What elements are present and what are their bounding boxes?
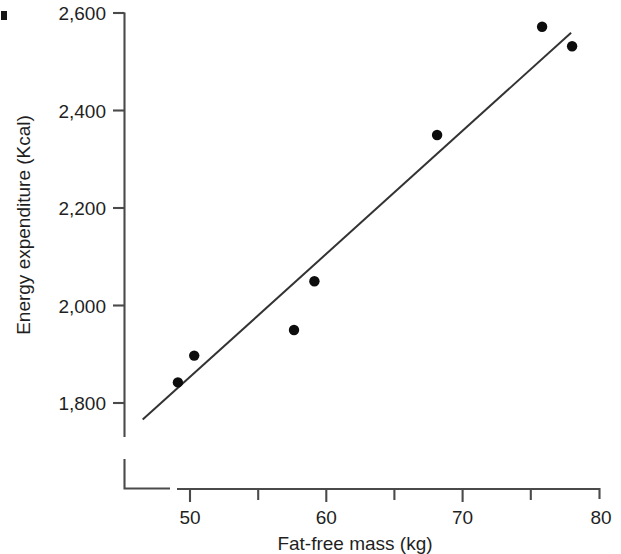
page-edge-marker-icon: [1, 11, 7, 20]
y-tick-label-2600: 2,600: [58, 3, 106, 24]
data-point: [189, 350, 199, 360]
y-tick-label-2200: 2,200: [58, 198, 106, 219]
x-tick-label-80: 80: [590, 507, 611, 528]
data-point: [289, 325, 299, 335]
x-axis-title: Fat-free mass (kg): [277, 533, 432, 554]
scatter-chart: 2,600 2,400 2,200 2,000 1,800 50 60 70 8…: [0, 0, 621, 554]
x-tick-label-70: 70: [452, 507, 473, 528]
regression-line: [143, 33, 571, 420]
data-point: [567, 41, 577, 51]
data-point: [432, 130, 442, 140]
y-tick-label-2000: 2,000: [58, 296, 106, 317]
data-point: [173, 377, 183, 387]
chart-canvas: 2,600 2,400 2,200 2,000 1,800 50 60 70 8…: [0, 0, 621, 554]
y-tick-label-2400: 2,400: [58, 101, 106, 122]
data-point: [309, 276, 319, 286]
y-axis-title: Energy expenditure (Kcal): [13, 115, 34, 335]
x-tick-label-50: 50: [179, 507, 200, 528]
x-tick-label-60: 60: [316, 507, 337, 528]
axis-break-connector: [125, 459, 171, 489]
data-point: [537, 22, 547, 32]
y-tick-label-1800: 1,800: [58, 393, 106, 414]
x-axis-line: [177, 489, 600, 499]
